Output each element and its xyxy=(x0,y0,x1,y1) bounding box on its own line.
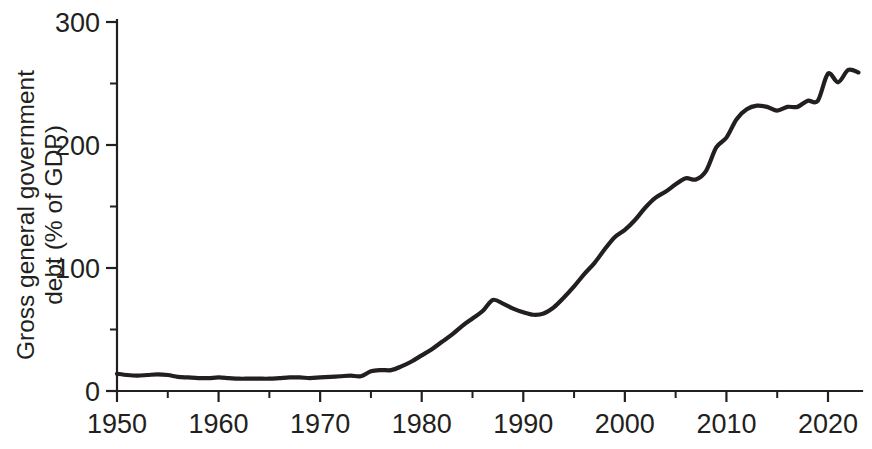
y-tick-label: 300 xyxy=(55,8,100,38)
line-chart: Gross general government debt (% of GDP)… xyxy=(0,0,872,449)
y-tick-label: 0 xyxy=(85,377,100,407)
x-tick-label: 2010 xyxy=(696,409,756,439)
x-tick-label: 1970 xyxy=(290,409,350,439)
y-axis-title-line1: Gross general government xyxy=(12,70,39,360)
x-tick-label: 1960 xyxy=(189,409,249,439)
x-tick-label: 1990 xyxy=(493,409,553,439)
x-tick-label: 2020 xyxy=(798,409,858,439)
x-tick-label: 2000 xyxy=(595,409,655,439)
x-tick-label: 1980 xyxy=(392,409,452,439)
y-tick-label: 100 xyxy=(55,254,100,284)
debt-series-line xyxy=(117,70,858,379)
x-tick-label: 1950 xyxy=(87,409,147,439)
x-axis-ticks: 19501960197019801990200020102020 xyxy=(87,391,858,439)
y-axis-title: Gross general government debt (% of GDP) xyxy=(12,70,67,360)
y-tick-label: 200 xyxy=(55,131,100,161)
chart-figure: Gross general government debt (% of GDP)… xyxy=(0,0,872,449)
